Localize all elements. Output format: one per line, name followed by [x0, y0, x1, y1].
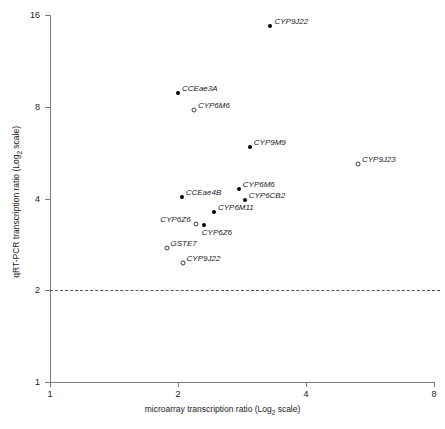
data-point-label: CYP9J23: [362, 155, 396, 164]
data-point-label: GSTE7: [171, 239, 197, 248]
x-tick-mark: [306, 382, 307, 387]
y-axis-line: [50, 15, 51, 382]
y-axis-title: qRT-PCR transcription ratio (Log2 scale): [11, 102, 23, 302]
y-tick-label: 1: [35, 377, 40, 387]
data-point: [355, 161, 360, 166]
data-point: [180, 195, 184, 199]
data-point: [176, 91, 180, 95]
x-tick-label: 8: [431, 389, 436, 399]
y-tick-label: 2: [35, 285, 40, 295]
scatter-plot-figure: 124816 1248 CYP9J22CCEae3ACYP6M6CYP9M9CY…: [0, 0, 445, 429]
x-tick-label: 1: [47, 389, 52, 399]
x-tick-mark: [50, 382, 51, 387]
data-point: [268, 24, 272, 28]
y-tick-mark: [45, 15, 50, 16]
x-axis-line: [50, 382, 435, 383]
x-axis-title: microarray transcription ratio (Log2 sca…: [0, 404, 445, 416]
y-tick-label: 16: [30, 10, 40, 20]
data-point: [212, 210, 216, 214]
data-point: [193, 221, 198, 226]
x-tick-mark: [434, 382, 435, 387]
y-tick-mark: [45, 199, 50, 200]
data-point-label: CCEae4B: [186, 188, 222, 197]
y-tick-mark: [45, 107, 50, 108]
x-tick-label: 4: [303, 389, 308, 399]
data-point: [202, 223, 206, 227]
data-point-label: CYP6Z6: [160, 215, 190, 224]
data-point-label: CYP9J22: [187, 254, 221, 263]
data-point-label: CYP6M6: [243, 180, 275, 189]
data-point-label: CYP6M6: [198, 101, 230, 110]
y-tick-label: 8: [35, 102, 40, 112]
data-point-label: CYP9J22: [274, 17, 308, 26]
x-tick-label: 2: [175, 389, 180, 399]
threshold-dashed-line: [50, 290, 440, 291]
data-point-label: CYP6M11: [218, 203, 254, 212]
data-point: [248, 145, 252, 149]
data-point: [164, 246, 169, 251]
data-point-label: CCEae3A: [182, 84, 218, 93]
data-point-label: CYP6CB2: [249, 191, 285, 200]
data-point: [237, 187, 241, 191]
data-point: [191, 108, 196, 113]
data-point: [180, 261, 185, 266]
y-tick-label: 4: [35, 194, 40, 204]
data-point: [243, 198, 247, 202]
data-point-label: CYP9M9: [254, 138, 286, 147]
data-point-label: CYP6Z6: [202, 228, 232, 237]
x-tick-mark: [178, 382, 179, 387]
